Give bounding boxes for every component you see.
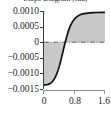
y-axis-tick	[40, 27, 43, 28]
chart-title: Slope Diagram (rad)	[0, 0, 111, 3]
y-axis-label-3: −0.0005	[8, 53, 39, 63]
chart-figure: Slope Diagram (rad) 0.0010 0.0005 0 −0.0…	[0, 0, 111, 116]
x-axis-label-1: 0.8	[69, 96, 81, 106]
y-axis-tick	[40, 73, 43, 74]
x-axis-tick	[43, 90, 44, 94]
y-axis-tick	[40, 58, 43, 59]
x-axis-label-0: 0	[42, 96, 47, 106]
x-axis-tick	[104, 90, 105, 94]
y-axis-label-5: −0.0015	[8, 85, 39, 95]
y-axis-tick	[40, 11, 43, 12]
y-axis-tick	[40, 42, 43, 43]
area-fill	[44, 12, 105, 85]
y-axis-label-4: −0.0010	[8, 69, 39, 79]
y-axis-label-1: 0.0005	[13, 22, 39, 32]
x-axis-tick	[74, 90, 75, 94]
x-axis-label-2: 1.6	[98, 96, 110, 106]
plot-svg	[44, 11, 105, 89]
plot-area	[44, 11, 105, 89]
y-axis-label-2: 0	[34, 38, 39, 48]
y-axis-label-0: 0.0010	[13, 7, 39, 17]
